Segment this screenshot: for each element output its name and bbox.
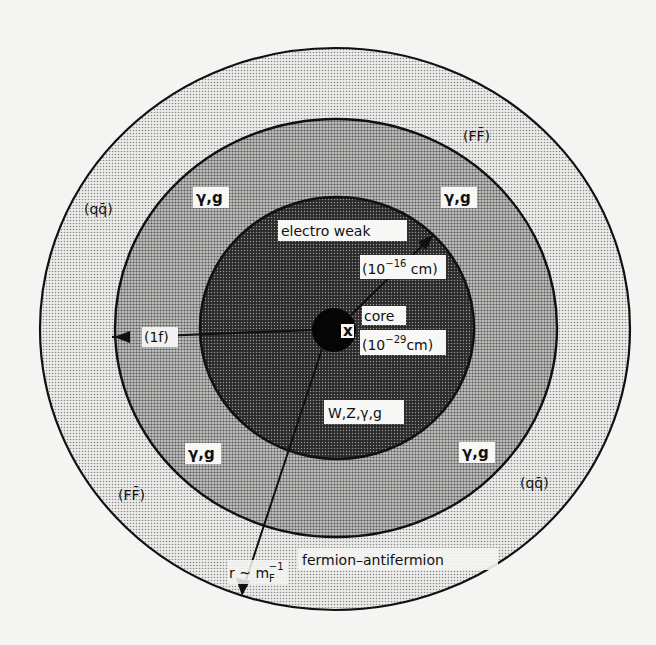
core-scale-exponent: −29	[385, 334, 406, 345]
ew-scale-unit: cm)	[406, 261, 437, 277]
ew-scale-exponent: −16	[385, 258, 406, 269]
qqbar-right: (qq̄)	[520, 475, 549, 491]
gamma-g-bottom-right: γ,g	[462, 444, 489, 462]
ew-particles-label: W,Z,γ,g	[328, 405, 382, 421]
one-fermi-label: (1f)	[144, 329, 169, 345]
ew-scale-base: (10	[362, 261, 385, 277]
core-scale-base: (10	[362, 337, 385, 353]
gamma-g-top-left: γ,g	[196, 189, 223, 207]
core-label: core	[364, 308, 394, 324]
electroweak-label: electro weak	[281, 223, 371, 239]
core-scale-unit: cm)	[406, 337, 433, 353]
radius-subscript: F	[269, 573, 275, 584]
gamma-g-bottom-left: γ,g	[188, 445, 215, 463]
radius-r: r ~ m	[229, 565, 269, 581]
radius-superscript: −1	[269, 561, 284, 572]
nested-shells-diagram: x electro weak (10−16 cm) core (10−29cm)…	[0, 0, 656, 645]
fermion-antifermion-label: fermion–antifermion	[302, 552, 444, 568]
core-marker: x	[343, 322, 353, 340]
gamma-g-top-right: γ,g	[444, 189, 471, 207]
ffbar-bottom: (FF̄)	[118, 486, 145, 503]
ffbar-top: (FF̄)	[463, 127, 490, 144]
qqbar-left: (qq̄)	[84, 201, 113, 217]
